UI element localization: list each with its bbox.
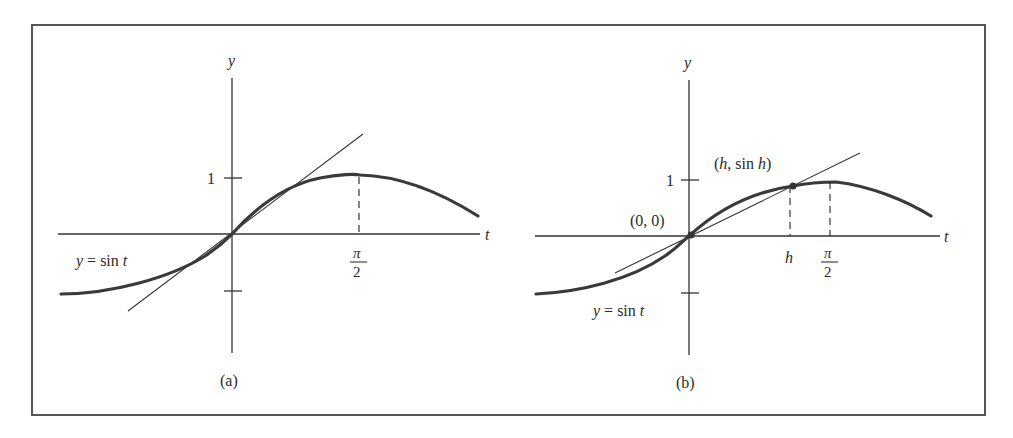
tangent-line — [128, 134, 363, 311]
h-tick-label: h — [785, 249, 793, 266]
curve-label: y = sin t — [74, 252, 128, 270]
origin-point-label: (0, 0) — [630, 212, 665, 230]
pi-denominator: 2 — [353, 264, 361, 280]
y-axis-label: y — [226, 52, 236, 70]
pi-numerator: π — [824, 245, 832, 261]
y-tick-1-label: 1 — [207, 170, 215, 187]
origin-point — [688, 232, 695, 239]
t-axis-label: t — [944, 228, 949, 245]
t-axis-label: t — [485, 226, 490, 243]
y-tick-1-label: 1 — [666, 172, 674, 189]
pi-over-2-label: π 2 — [350, 245, 367, 280]
pi-numerator: π — [353, 245, 361, 261]
panel-b: y t 1 (0, 0) (h, sin h) h π 2 y = sin t … — [535, 54, 949, 392]
sine-curve — [536, 182, 931, 294]
sin-tangent-secant-figure: y t 1 π 2 y = sin t (a) y t 1 ( — [0, 0, 1013, 438]
panel-a: y t 1 π 2 y = sin t (a) — [58, 52, 490, 390]
pi-denominator: 2 — [824, 264, 832, 280]
panel-b-caption: (b) — [676, 374, 695, 392]
pi-over-2-label: π 2 — [821, 245, 838, 280]
figure-frame — [32, 25, 985, 415]
y-axis-label: y — [682, 54, 692, 72]
curve-label: y = sin t — [591, 302, 645, 320]
h-point-label: (h, sin h) — [714, 155, 771, 173]
h-point — [790, 183, 797, 190]
panel-a-caption: (a) — [220, 372, 238, 390]
